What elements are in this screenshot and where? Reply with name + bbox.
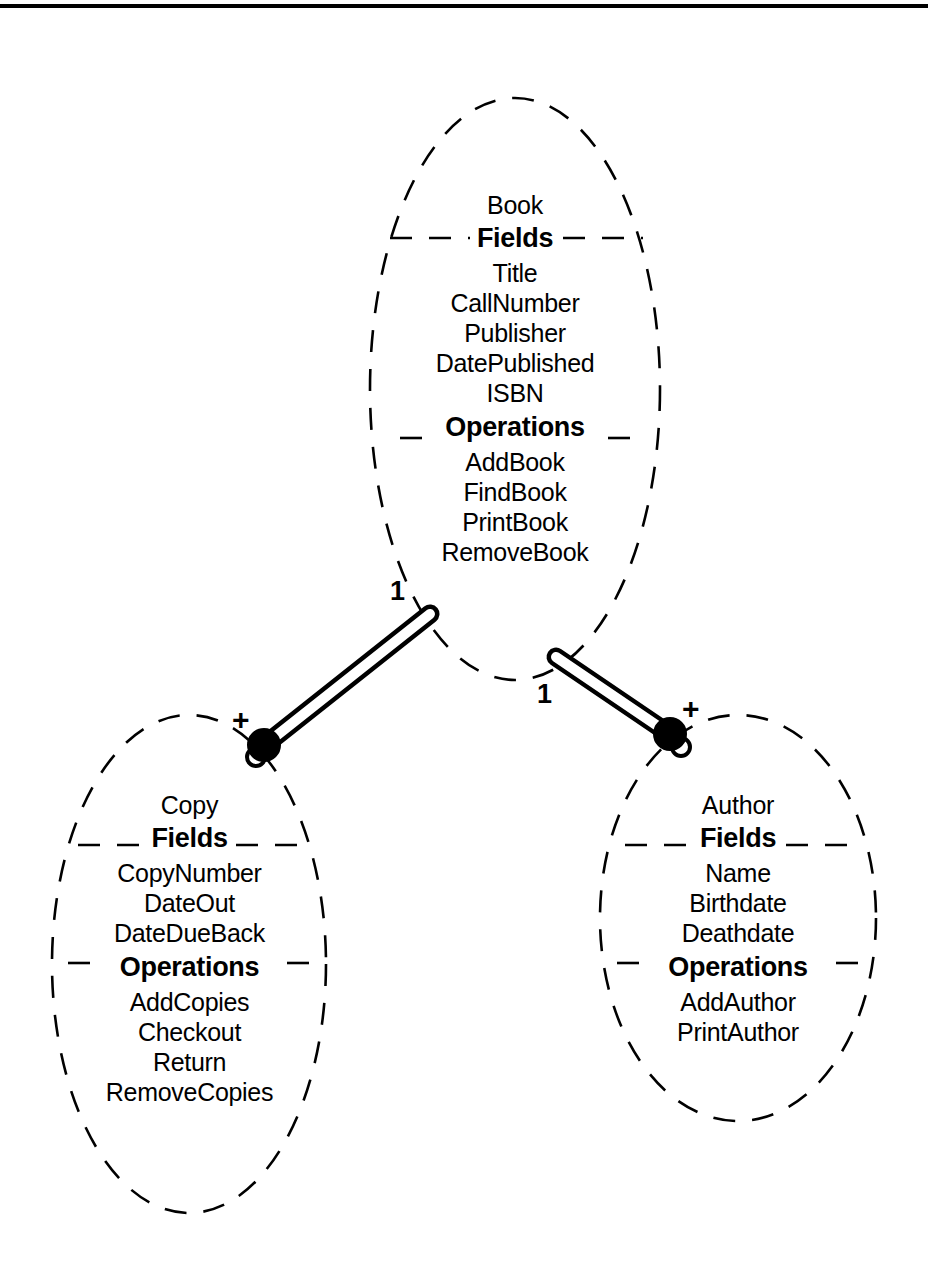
class-name-book: Book [370,190,660,221]
operation-item: PrintAuthor [600,1017,876,1047]
operation-item: FindBook [370,477,660,507]
field-list-author: Name Birthdate Deathdate [600,858,876,948]
section-header-book-fields: Fields [370,221,660,255]
field-item: DatePublished [370,348,660,378]
relationship-book-copy-inner [266,614,430,744]
field-item: CopyNumber [52,858,327,888]
class-block-book[interactable]: Book Fields Title CallNumber Publisher D… [370,190,660,569]
field-item: Deathdate [600,918,876,948]
section-header-author-operations: Operations [600,950,876,984]
field-item: Birthdate [600,888,876,918]
relationship-book-copy[interactable] [247,614,430,766]
operation-item: PrintBook [370,507,660,537]
class-block-author[interactable]: Author Fields Name Birthdate Deathdate O… [600,790,876,1049]
object-model-diagram: Book Fields Title CallNumber Publisher D… [0,0,928,1278]
operation-item: RemoveBook [370,537,660,567]
field-item: Name [600,858,876,888]
class-name-copy: Copy [52,790,327,821]
section-header-book-operations: Operations [370,410,660,444]
field-item: DateDueBack [52,918,327,948]
relationship-book-author[interactable] [556,657,690,756]
multiplicity-book-author-many: + [682,694,700,724]
multiplicity-book-author-one: 1 [537,681,552,708]
section-header-copy-operations: Operations [52,950,327,984]
field-list-book: Title CallNumber Publisher DatePublished… [370,258,660,408]
relationship-book-copy-endpoint [248,729,280,761]
operation-item: Return [52,1047,327,1077]
operation-list-book: AddBook FindBook PrintBook RemoveBook [370,447,660,567]
field-item: CallNumber [370,288,660,318]
operation-item: AddAuthor [600,987,876,1017]
relationship-book-author-inner [556,657,668,733]
class-name-author: Author [600,790,876,821]
section-header-author-fields: Fields [600,821,876,855]
class-block-copy[interactable]: Copy Fields CopyNumber DateOut DateDueBa… [52,790,327,1109]
operation-item: AddCopies [52,987,327,1017]
operation-item: Checkout [52,1017,327,1047]
operation-list-copy: AddCopies Checkout Return RemoveCopies [52,987,327,1107]
operation-list-author: AddAuthor PrintAuthor [600,987,876,1047]
operation-item: RemoveCopies [52,1077,327,1107]
field-item: DateOut [52,888,327,918]
operation-item: AddBook [370,447,660,477]
section-header-copy-fields: Fields [52,821,327,855]
multiplicity-book-copy-many: + [232,705,250,735]
multiplicity-book-copy-one: 1 [390,578,405,605]
field-item: Publisher [370,318,660,348]
field-list-copy: CopyNumber DateOut DateDueBack [52,858,327,948]
field-item: ISBN [370,378,660,408]
field-item: Title [370,258,660,288]
